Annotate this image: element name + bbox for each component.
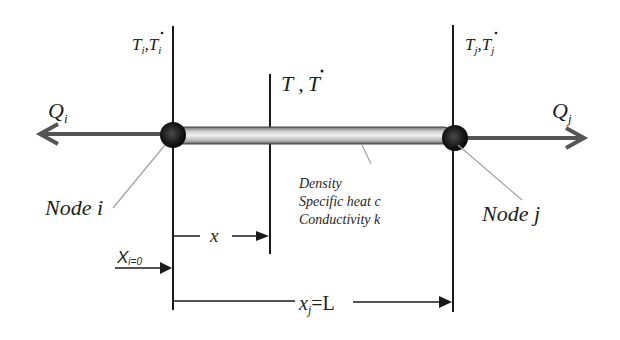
interior-dot-accent xyxy=(321,70,324,73)
x-label: x xyxy=(209,225,219,246)
node-i-dot-accent xyxy=(161,32,164,35)
heat-element-diagram: Ti,Ti Tj,Tj T ,T Qi Qj Node i Node j Den… xyxy=(0,0,620,340)
node-i-dot xyxy=(160,122,186,148)
interior-temperature-label: T ,T xyxy=(281,71,322,96)
heat-flow-i-arrow xyxy=(40,124,168,144)
property-specific-heat: Specific heat c xyxy=(299,194,381,209)
node-j-label: Node j xyxy=(481,201,540,226)
node-j-dot xyxy=(442,125,468,151)
xi-origin-label: Xi=0 xyxy=(116,248,142,267)
node-j-temperature-label: Tj,Tj xyxy=(465,35,494,56)
node-j-leader xyxy=(458,145,522,200)
property-conductivity: Conductivity k xyxy=(299,212,381,227)
x-dimension xyxy=(174,231,269,241)
heat-flow-j-label: Qj xyxy=(552,98,572,126)
node-i-label: Node i xyxy=(44,195,103,220)
heat-flow-j-arrow xyxy=(458,128,584,148)
rod xyxy=(180,127,448,144)
heat-flow-i-label: Qi xyxy=(48,98,68,126)
node-i-temperature-label: Ti,Ti xyxy=(132,35,161,56)
property-density: Density xyxy=(298,176,343,191)
node-i-leader xyxy=(113,145,165,208)
length-label: xj=L xyxy=(298,292,335,317)
properties-leader xyxy=(362,145,371,164)
node-j-dot-accent xyxy=(495,32,498,35)
